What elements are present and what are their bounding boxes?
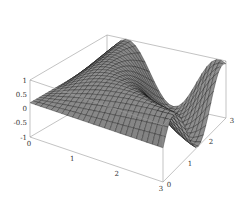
tick-label: 3 [159,185,163,193]
tick-label: 0.5 [16,91,27,99]
tick-label: -0.5 [14,119,28,127]
tick-label: 2 [114,170,118,178]
tick-label: 2 [209,138,213,146]
tick-label: 1 [23,77,27,85]
surface-mesh [30,39,226,148]
tick-label: 0 [27,140,31,148]
surface-plot: -1-0.500.5101230123 [0,0,239,198]
tick-label: 3 [230,117,234,125]
tick-label: 1 [188,160,192,168]
tick-label: 0 [167,181,171,189]
tick-label: 0 [23,105,27,113]
tick-label: 1 [70,155,74,163]
